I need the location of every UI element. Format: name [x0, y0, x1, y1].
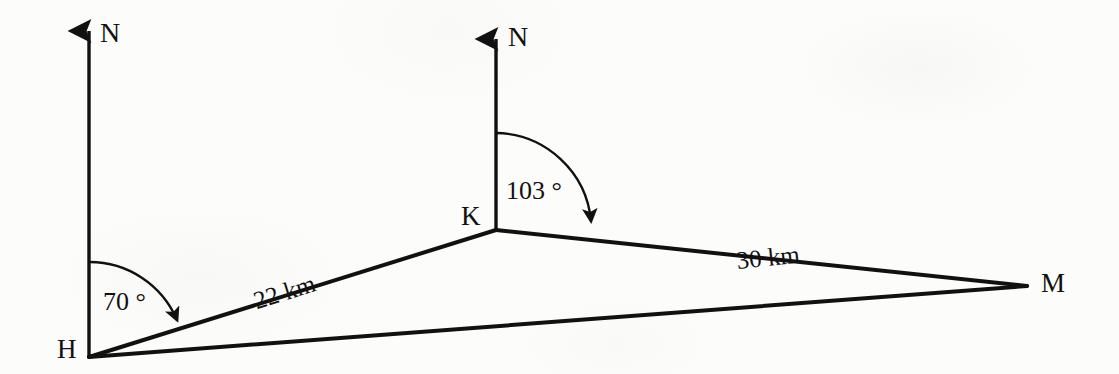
side-label-KM-30km: 30 km: [735, 242, 800, 273]
angle-label-103-degrees: 103 °: [506, 178, 562, 204]
side-HM-line: [89, 286, 1027, 357]
vertex-label-M: M: [1041, 270, 1065, 297]
vertex-label-H: H: [57, 336, 77, 363]
angle-label-70-degrees: 70 °: [103, 289, 146, 315]
vertex-label-K: K: [461, 203, 481, 230]
compass-label-north-at-H: N: [100, 19, 120, 47]
compass-label-north-at-K: N: [508, 23, 528, 51]
diagram-canvas: N N H K M 70 ° 103 ° 22 km 30 km: [0, 0, 1119, 374]
